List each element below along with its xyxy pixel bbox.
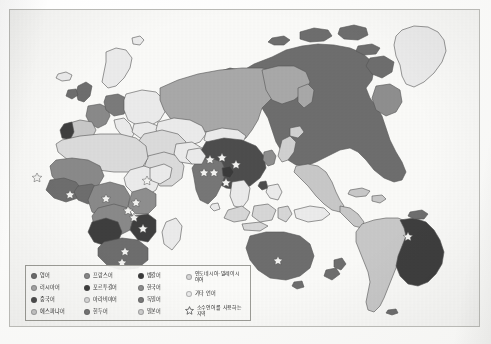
legend-item-minority-language-area: 소수언어를 사용하는 지역 [186,304,245,317]
legend-item-german: 독일어 [138,294,183,305]
legend-swatch-portuguese [84,285,90,291]
legend-item-french: 프랑스어 [84,270,135,281]
legend-swatch-hindi [84,309,90,315]
legend-swatch-korean [138,285,144,291]
legend-swatch-arabic [84,297,90,303]
legend-label-chinese: 중국어 [40,297,55,302]
legend-item-bengali: 벵갈어 [138,270,183,281]
star-icon [185,306,194,315]
legend-swatch-french [84,273,90,279]
legend-swatch-russian [31,285,37,291]
legend-item-hindi: 힌두어 [84,306,135,317]
legend-label-spanish: 에스파냐어 [40,309,65,314]
legend-swatch-indonesian-malay [186,274,192,280]
legend-item-spanish: 에스파냐어 [31,306,81,317]
legend-column-1: 영어 러시아어 중국어 에스파냐어 [31,270,81,317]
legend-label-portuguese: 포르투갈어 [93,285,118,290]
legend-label-hindi: 힌두어 [93,309,108,314]
legend-item-korean: 한국어 [138,282,183,293]
legend-item-arabic: 아라비아어 [84,294,135,305]
scanned-page: .c{stroke:#555;stroke-width:.6;stroke-li… [0,0,491,344]
legend-label-indonesian-malay: 인도네시아·말레이시아어 [195,271,243,282]
legend-item-japanese: 일본어 [138,306,183,317]
legend-label-german: 독일어 [147,297,162,302]
legend-label-minority-language-area: 소수언어를 사용하는 지역 [197,305,245,316]
legend-label-russian: 러시아어 [40,285,60,290]
legend-label-bengali: 벵갈어 [147,273,162,278]
legend-swatch-japanese [138,309,144,315]
legend-item-other-languages: 기타 언어 [186,288,245,299]
legend-item-portuguese: 포르투갈어 [84,282,135,293]
legend-item-english: 영어 [31,270,81,281]
legend-item-indonesian-malay: 인도네시아·말레이시아어 [186,270,245,283]
legend-column-2: 프랑스어 포르투갈어 아라비아어 힌두어 [84,270,135,317]
legend-label-french: 프랑스어 [93,273,113,278]
legend-label-japanese: 일본어 [147,309,162,314]
map-legend: 영어 러시아어 중국어 에스파냐어 프랑스어 [25,265,251,321]
legend-swatch-bengali [138,273,144,279]
legend-label-arabic: 아라비아어 [93,297,118,302]
legend-column-4: 인도네시아·말레이시아어 기타 언어 소수언어를 사용하는 지역 [186,270,245,317]
legend-swatch-chinese [31,297,37,303]
legend-label-english: 영어 [40,273,50,278]
legend-item-russian: 러시아어 [31,282,81,293]
legend-swatch-spanish [31,309,37,315]
legend-column-3: 벵갈어 한국어 독일어 일본어 [138,270,183,317]
legend-swatch-german [138,297,144,303]
legend-item-chinese: 중국어 [31,294,81,305]
legend-swatch-english [31,273,37,279]
legend-label-other-languages: 기타 언어 [195,291,216,296]
legend-swatch-other-languages [186,291,192,297]
legend-label-korean: 한국어 [147,285,162,290]
map-frame: .c{stroke:#555;stroke-width:.6;stroke-li… [9,9,480,327]
